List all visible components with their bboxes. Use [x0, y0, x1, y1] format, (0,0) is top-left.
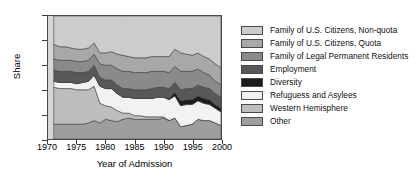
legend-item[interactable]: Family of Legal Permanent Residents [241, 50, 415, 63]
x-tick-label: 2000 [207, 143, 237, 152]
legend-swatch [241, 52, 263, 61]
plot-area [47, 15, 222, 140]
stacked-area-chart-figure: Share 00.20.40.60.81 1970197519801985199… [0, 0, 417, 183]
x-tick-label: 1970 [32, 143, 62, 152]
stacked-area-svg [48, 16, 221, 139]
x-tick-label: 1995 [178, 143, 208, 152]
legend: Family of U.S. Citizens, Non-quotaFamily… [241, 24, 415, 128]
legend-swatch [241, 65, 263, 74]
x-tick-label: 1990 [149, 143, 179, 152]
legend-item[interactable]: Western Hemisphere [241, 102, 415, 115]
legend-item[interactable]: Diversity [241, 76, 415, 89]
x-tick-label: 1975 [61, 143, 91, 152]
legend-swatch [241, 39, 263, 48]
legend-label: Employment [270, 65, 316, 74]
legend-label: Family of U.S. Citizens, Quota [270, 39, 381, 48]
legend-label: Diversity [270, 78, 302, 87]
legend-swatch [241, 78, 263, 87]
legend-swatch [241, 117, 263, 126]
x-axis-label: Year of Admission [47, 158, 222, 169]
legend-label: Family of U.S. Citizens, Non-quota [270, 26, 397, 35]
legend-swatch [241, 104, 263, 113]
x-tick-label: 1985 [120, 143, 150, 152]
legend-item[interactable]: Employment [241, 63, 415, 76]
legend-label: Refuguess and Asylees [270, 91, 357, 100]
legend-item[interactable]: Other [241, 115, 415, 128]
legend-label: Family of Legal Permanent Residents [270, 52, 408, 61]
x-tick-label: 1980 [90, 143, 120, 152]
legend-swatch [241, 91, 263, 100]
legend-item[interactable]: Family of U.S. Citizens, Quota [241, 37, 415, 50]
legend-item[interactable]: Family of U.S. Citizens, Non-quota [241, 24, 415, 37]
legend-label: Western Hemisphere [270, 104, 348, 113]
legend-swatch [241, 26, 263, 35]
legend-item[interactable]: Refuguess and Asylees [241, 89, 415, 102]
legend-label: Other [270, 117, 291, 126]
y-axis-label: Share [11, 37, 22, 97]
